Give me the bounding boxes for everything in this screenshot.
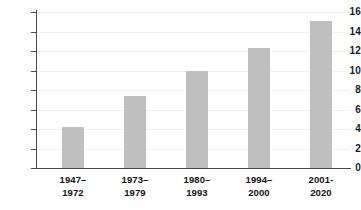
x-tick-label: 1947–1972 (42, 173, 104, 199)
bar[interactable] (186, 71, 208, 169)
x-tick-label-line: 1947– (42, 173, 104, 186)
y-tick-mark (31, 51, 36, 52)
x-tick-label-line: 1993 (166, 186, 228, 199)
x-tick-label: 1973–1979 (104, 173, 166, 199)
y-tick-mark (31, 71, 36, 72)
x-tick-label: 1994–2000 (228, 173, 290, 199)
x-tick-label-line: 1973– (104, 173, 166, 186)
x-tick-label-line: 1979 (104, 186, 166, 199)
bar[interactable] (124, 96, 146, 168)
y-tick-label: 8 (335, 85, 361, 95)
y-tick-label: 0 (335, 163, 361, 173)
y-tick-label: 2 (335, 144, 361, 154)
y-tick-mark (31, 90, 36, 91)
x-tick-label-line: 2001- (290, 173, 352, 186)
y-tick-label: 16 (335, 7, 361, 17)
bars-group (36, 12, 350, 168)
x-tick-label-line: 1980– (166, 173, 228, 186)
x-tick-label: 1980–1993 (166, 173, 228, 199)
x-tick-label-line: 2020 (290, 186, 352, 199)
y-tick-mark (31, 129, 36, 130)
x-axis-line (36, 168, 351, 169)
y-tick-label: 4 (335, 124, 361, 134)
x-tick-label-line: 1972 (42, 186, 104, 199)
x-tick-label: 2001-2020 (290, 173, 352, 199)
y-tick-mark (31, 110, 36, 111)
x-tick-label-line: 2000 (228, 186, 290, 199)
bar-chart: 0246810121416 1947–19721973–19791980–199… (0, 0, 361, 210)
y-tick-label: 10 (335, 66, 361, 76)
y-axis-line (36, 10, 37, 169)
y-tick-mark (31, 168, 36, 169)
y-tick-label: 12 (335, 46, 361, 56)
y-tick-mark (31, 32, 36, 33)
x-tick-label-line: 1994– (228, 173, 290, 186)
y-tick-label: 14 (335, 27, 361, 37)
bar[interactable] (62, 127, 84, 168)
y-tick-mark (31, 149, 36, 150)
y-tick-label: 6 (335, 105, 361, 115)
bar[interactable] (248, 48, 270, 168)
y-tick-mark (31, 12, 36, 13)
bar[interactable] (310, 21, 332, 168)
